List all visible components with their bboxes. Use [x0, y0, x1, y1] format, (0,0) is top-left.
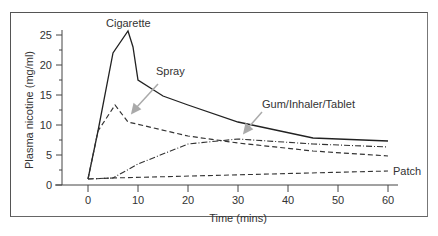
- x-axis-title: Time (mins): [209, 212, 267, 224]
- x-tick-label: 10: [132, 194, 144, 206]
- y-tick-label: 0: [46, 179, 52, 191]
- x-tick-label: 20: [182, 194, 194, 206]
- series-gum-inhaler-tablet: [88, 139, 388, 179]
- y-axis: [56, 30, 62, 185]
- annotation-arrow-gum: [244, 112, 262, 133]
- y-tick-label: 25: [40, 29, 52, 41]
- annotation-arrow-spray: [132, 84, 158, 113]
- label-spray: Spray: [156, 65, 185, 77]
- y-tick-label: 15: [40, 89, 52, 101]
- label-cigarette: Cigarette: [106, 17, 151, 29]
- line-chart: 0 5 10 15 20 25 0 10 20 30 40 50 60 Time…: [0, 0, 438, 236]
- label-gum: Gum/Inhaler/Tablet: [262, 98, 355, 110]
- x-tick-label: 0: [85, 194, 91, 206]
- y-tick-label: 5: [46, 149, 52, 161]
- x-tick-label: 30: [232, 194, 244, 206]
- series-patch: [88, 171, 388, 179]
- label-patch: Patch: [393, 165, 421, 177]
- x-tick-label: 50: [332, 194, 344, 206]
- x-axis: [55, 185, 398, 192]
- x-tick-label: 60: [382, 194, 394, 206]
- y-tick-label: 20: [40, 59, 52, 71]
- series-spray: [88, 105, 388, 179]
- y-tick-label: 10: [40, 119, 52, 131]
- x-tick-label: 40: [282, 194, 294, 206]
- y-axis-title: Plasma nicotine (mg/ml): [23, 51, 35, 169]
